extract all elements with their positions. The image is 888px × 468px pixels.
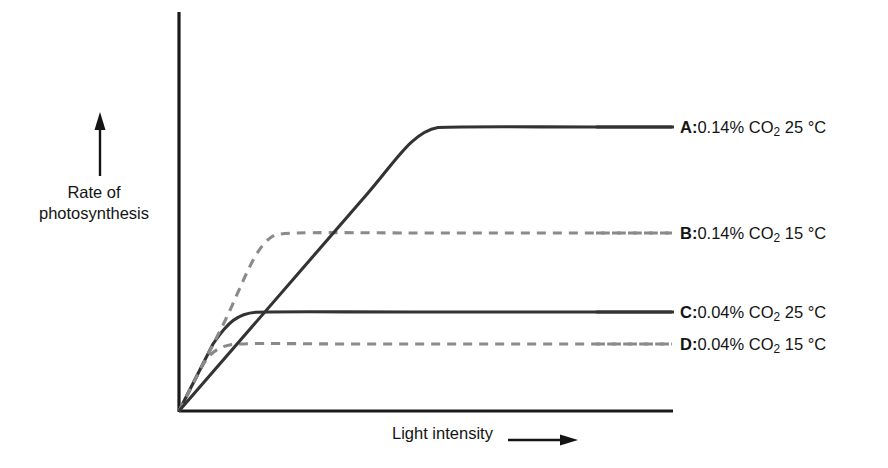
arrow-up-icon bbox=[95, 112, 106, 176]
legend-key-a: A: bbox=[680, 118, 697, 136]
legend-text-d: 0.04% CO bbox=[697, 335, 773, 353]
legend-item-b: B:0.14% CO2 15 °C bbox=[680, 225, 826, 245]
curve-a-path bbox=[179, 127, 672, 411]
curve-d-path bbox=[179, 344, 672, 411]
photosynthesis-light-response-figure: Rate of photosynthesis Light intensity A… bbox=[0, 0, 888, 468]
legend-item-a: A:0.14% CO2 25 °C bbox=[680, 119, 826, 139]
legend-key-b: B: bbox=[680, 224, 697, 242]
y-axis-label-line2: photosynthesis bbox=[18, 203, 170, 224]
axis-group bbox=[179, 12, 673, 412]
legend-tail-b: 15 °C bbox=[780, 224, 826, 242]
legend-tail-a: 25 °C bbox=[780, 118, 826, 136]
legend-tail-d: 15 °C bbox=[780, 335, 826, 353]
legend-tail-c: 25 °C bbox=[780, 303, 826, 321]
legend-text-a: 0.14% CO bbox=[697, 118, 773, 136]
legend-leader-lines bbox=[596, 127, 674, 344]
x-axis-label-text: Light intensity bbox=[392, 424, 493, 443]
curve-b-path bbox=[179, 233, 672, 411]
legend-text-b: 0.14% CO bbox=[697, 224, 773, 242]
legend-text-c: 0.04% CO bbox=[697, 303, 773, 321]
arrow-right-icon bbox=[508, 435, 578, 446]
legend-key-d: D: bbox=[680, 335, 697, 353]
legend-item-d: D:0.04% CO2 15 °C bbox=[680, 336, 826, 356]
legend-key-c: C: bbox=[680, 303, 697, 321]
x-axis-label: Light intensity bbox=[392, 424, 493, 443]
y-axis-label: Rate of photosynthesis bbox=[18, 182, 170, 224]
legend-item-c: C:0.04% CO2 25 °C bbox=[680, 304, 826, 324]
y-axis-label-line1: Rate of bbox=[18, 182, 170, 203]
